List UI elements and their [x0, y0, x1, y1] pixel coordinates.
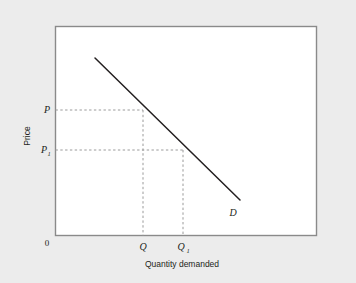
- demand-curve-label: D: [228, 207, 237, 218]
- quantity-tick-q: Q: [139, 241, 147, 252]
- price-tick-p1-base: P: [40, 144, 47, 155]
- quantity-tick-q1: Q: [177, 241, 185, 252]
- price-tick-p1: P: [40, 144, 47, 155]
- x-axis-title: Quantity demanded: [145, 259, 219, 269]
- demand-curve-figure: D Price P P 1 0 Q Q 1 Quantity demanded: [0, 0, 356, 283]
- quantity-tick-q1-base: Q: [177, 241, 185, 252]
- price-tick-p1-subscript: 1: [47, 150, 50, 157]
- origin-label: 0: [45, 238, 50, 248]
- demand-diagram: D Price P P 1 0 Q Q 1 Quantity demanded: [0, 0, 356, 283]
- price-tick-p: P: [43, 104, 50, 115]
- quantity-tick-q1-subscript: 1: [186, 247, 189, 254]
- y-axis-title: Price: [22, 126, 32, 146]
